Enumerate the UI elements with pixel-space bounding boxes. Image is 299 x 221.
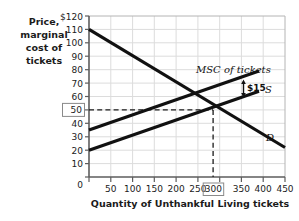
x-tick-label-100: 100 xyxy=(124,184,141,194)
y-axis-title-line-4: tickets xyxy=(26,55,62,66)
x-tick-label-50: 50 xyxy=(105,184,117,194)
y-axis-title-line-2: marginal xyxy=(20,29,67,40)
y-tick-label-70: 70 xyxy=(72,79,84,89)
y-axis-title-line-1: Price, xyxy=(29,16,60,27)
y-tick-label-20: 20 xyxy=(72,146,84,156)
x-tick-label-150: 150 xyxy=(146,184,163,194)
curve-label-demand: D xyxy=(265,132,274,143)
y-axis-title: Price, marginal cost of tickets xyxy=(20,16,67,66)
y-tick-label-40: 40 xyxy=(72,119,84,129)
y-axis-title-line-3: cost of xyxy=(26,42,63,53)
gap-amount-label: $15 xyxy=(247,83,266,93)
y-tick-label-50: 50 xyxy=(71,105,83,115)
y-tick-label-120: $120 xyxy=(60,12,83,22)
x-tick-label-350: 350 xyxy=(233,184,250,194)
chart-figure: $120 110 100 90 80 70 60 50 40 30 20 10 … xyxy=(0,0,299,221)
curve-label-supply: S xyxy=(265,84,272,95)
x-tick-label-200: 200 xyxy=(168,184,185,194)
curve-label-msc: MSC of tickets xyxy=(195,64,271,75)
y-tick-label-60: 60 xyxy=(72,92,84,102)
y-tick-label-100: 100 xyxy=(66,38,83,48)
x-axis-labels: 50 100 150 200 250 300 350 400 450 xyxy=(105,183,294,196)
y-tick-label-110: 110 xyxy=(66,25,83,35)
y-tick-label-0: 0 xyxy=(77,180,83,190)
y-tick-label-90: 90 xyxy=(72,52,84,62)
x-axis-title: Quantity of Unthankful Living tickets xyxy=(91,198,290,209)
x-tick-label-400: 400 xyxy=(255,184,272,194)
y-tick-label-30: 30 xyxy=(72,132,84,142)
x-tick-label-450: 450 xyxy=(276,184,293,194)
y-tick-label-80: 80 xyxy=(72,65,84,75)
x-tick-label-300: 300 xyxy=(205,184,222,194)
economics-externality-chart: $120 110 100 90 80 70 60 50 40 30 20 10 … xyxy=(0,0,299,221)
y-tick-label-10: 10 xyxy=(72,159,84,169)
